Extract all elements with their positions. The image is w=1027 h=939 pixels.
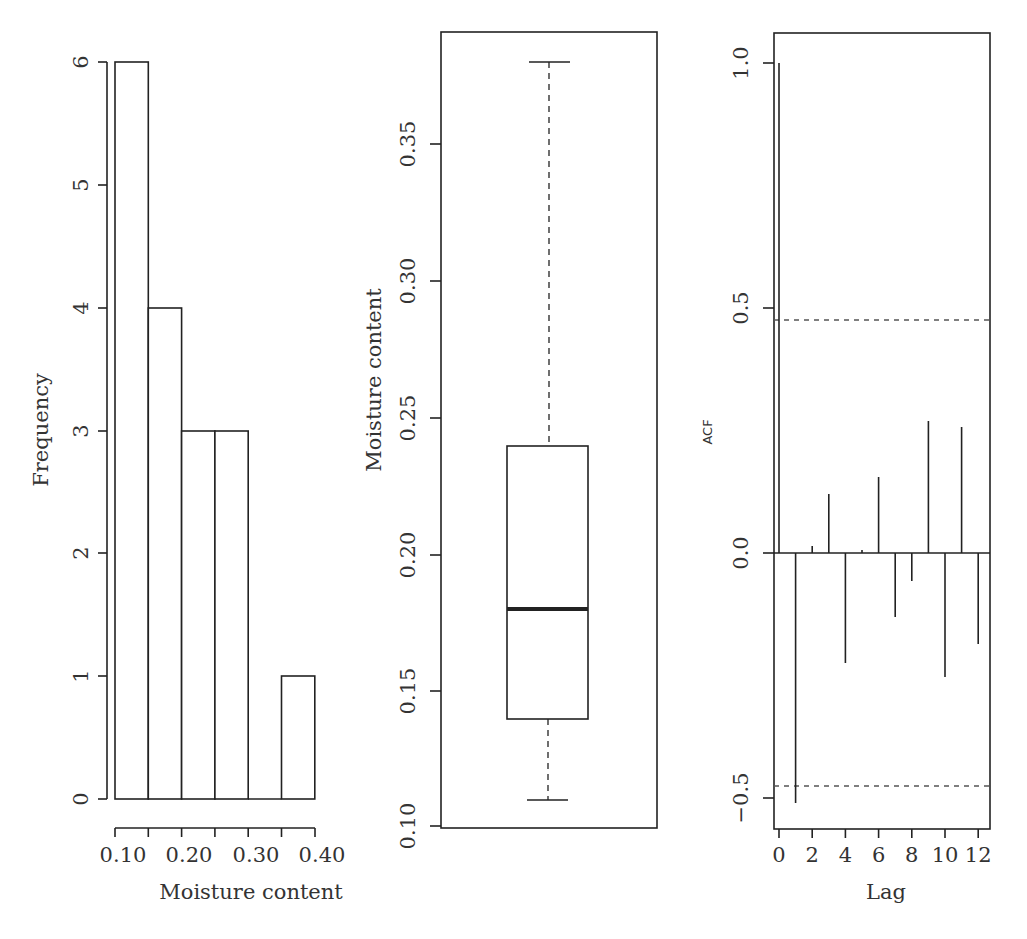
boxplot-panel: 0.10 0.15 0.20 0.25 0.30 0.35 Moisture c… bbox=[362, 32, 657, 849]
acf-y-axis bbox=[763, 63, 774, 798]
hist-x-axis bbox=[115, 828, 315, 837]
hist-y-tick-3: 3 bbox=[69, 424, 93, 437]
acf-y-tick-labels: −0.5 0.0 0.5 1.0 bbox=[729, 46, 753, 823]
acf-y-tick-00: 0.0 bbox=[729, 536, 753, 569]
hist-y-label: Frequency bbox=[29, 373, 53, 487]
boxplot-y-tick-labels: 0.10 0.15 0.20 0.25 0.30 0.35 bbox=[396, 121, 420, 850]
acf-y-label: ACF bbox=[700, 419, 715, 444]
box-y-tick-015: 0.15 bbox=[396, 668, 420, 715]
acf-x-tick-12: 12 bbox=[965, 843, 992, 867]
hist-bar-2 bbox=[148, 308, 181, 799]
box-y-tick-020: 0.20 bbox=[396, 532, 420, 579]
hist-bar-6 bbox=[282, 676, 315, 799]
hist-y-tick-5: 5 bbox=[69, 178, 93, 191]
figure: 0 1 2 3 4 5 6 Frequency bbox=[0, 0, 1027, 939]
acf-x-tick-4: 4 bbox=[839, 843, 852, 867]
acf-y-tick-10: 1.0 bbox=[729, 46, 753, 79]
boxplot-y-label: Moisture content bbox=[362, 288, 386, 472]
acf-panel: −0.5 0.0 0.5 1.0 ACF bbox=[700, 33, 992, 904]
acf-y-tick-05: 0.5 bbox=[729, 291, 753, 324]
acf-x-tick-labels: 0 2 4 6 8 10 12 bbox=[772, 843, 991, 867]
acf-x-tick-10: 10 bbox=[932, 843, 959, 867]
hist-bars bbox=[115, 62, 315, 799]
hist-bar-1 bbox=[115, 62, 148, 799]
histogram-panel: 0 1 2 3 4 5 6 Frequency bbox=[29, 55, 345, 904]
acf-x-label: Lag bbox=[866, 880, 906, 904]
boxplot-y-axis bbox=[430, 144, 441, 826]
hist-y-tick-0: 0 bbox=[69, 792, 93, 805]
boxplot-glyph bbox=[507, 62, 588, 800]
acf-x-tick-6: 6 bbox=[872, 843, 885, 867]
acf-x-tick-2: 2 bbox=[806, 843, 819, 867]
box-y-tick-025: 0.25 bbox=[396, 395, 420, 442]
box-y-tick-010: 0.10 bbox=[396, 803, 420, 850]
hist-y-tick-labels: 0 1 2 3 4 5 6 bbox=[69, 55, 93, 805]
box-y-tick-035: 0.35 bbox=[396, 121, 420, 168]
hist-x-tick-020: 0.20 bbox=[166, 843, 213, 867]
hist-x-tick-040: 0.40 bbox=[299, 843, 346, 867]
hist-y-tick-6: 6 bbox=[69, 55, 93, 68]
acf-frame bbox=[774, 33, 990, 829]
iqr-box bbox=[507, 446, 588, 719]
hist-bar-3 bbox=[182, 431, 215, 799]
hist-bar-4 bbox=[215, 431, 248, 799]
hist-x-tick-030: 0.30 bbox=[233, 843, 280, 867]
acf-x-tick-8: 8 bbox=[905, 843, 918, 867]
box-y-tick-030: 0.30 bbox=[396, 258, 420, 305]
acf-y-tick-neg05: −0.5 bbox=[729, 773, 753, 824]
acf-x-tick-0: 0 bbox=[772, 843, 785, 867]
hist-x-tick-labels: 0.10 0.20 0.30 0.40 bbox=[100, 843, 346, 867]
hist-y-tick-2: 2 bbox=[69, 546, 93, 559]
acf-x-axis bbox=[779, 829, 978, 838]
hist-y-tick-1: 1 bbox=[69, 669, 93, 682]
hist-x-tick-010: 0.10 bbox=[100, 843, 147, 867]
hist-x-label: Moisture content bbox=[159, 880, 343, 904]
hist-y-axis bbox=[98, 62, 107, 799]
hist-y-tick-4: 4 bbox=[69, 301, 93, 314]
acf-spikes bbox=[779, 63, 978, 803]
